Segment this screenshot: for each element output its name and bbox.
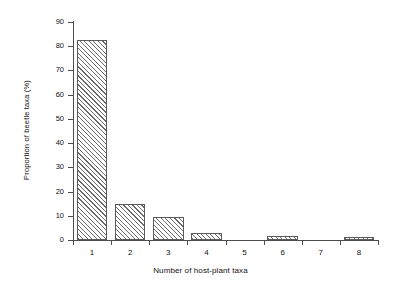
y-axis-tick-label: 10 (0, 211, 64, 220)
bar-4 (191, 233, 222, 240)
x-axis-tick (73, 240, 74, 245)
x-axis-tick-label: 8 (347, 248, 371, 257)
y-axis-tick-label: 60 (0, 90, 64, 99)
x-axis-tick-label: 4 (194, 248, 218, 257)
y-axis-tick (68, 167, 73, 168)
x-axis-tick-label: 2 (118, 248, 142, 257)
bar-3 (153, 217, 184, 240)
x-axis-tick (149, 240, 150, 245)
y-axis-tick (68, 46, 73, 47)
bar-8 (344, 237, 375, 240)
x-axis-tick-label: 3 (156, 248, 180, 257)
x-axis-tick (340, 240, 341, 245)
y-axis-tick (68, 22, 73, 23)
y-axis-tick-label: 30 (0, 162, 64, 171)
y-axis-tick-label: 90 (0, 17, 64, 26)
x-axis-tick-label: 6 (271, 248, 295, 257)
y-axis-tick-label: 0 (0, 235, 64, 244)
x-axis-tick (187, 240, 188, 245)
y-axis-tick (68, 70, 73, 71)
y-axis-tick-label: 20 (0, 187, 64, 196)
y-axis-tick (68, 143, 73, 144)
y-axis-tick (68, 119, 73, 120)
y-axis-tick-label: 50 (0, 114, 64, 123)
x-axis-tick (264, 240, 265, 245)
x-axis-tick-label: 7 (309, 248, 333, 257)
chart-figure: Proportion of beetle taxa (%) Number of … (0, 0, 401, 291)
x-axis-tick-label: 5 (233, 248, 257, 257)
x-axis-tick (111, 240, 112, 245)
x-axis-tick (302, 240, 303, 245)
y-axis-tick-label: 70 (0, 65, 64, 74)
x-axis-tick (226, 240, 227, 245)
y-axis-tick (68, 95, 73, 96)
y-axis-tick (68, 216, 73, 217)
x-axis-tick (378, 240, 379, 245)
bar-1 (77, 40, 108, 240)
bar-2 (115, 204, 146, 240)
bar-6 (267, 236, 298, 240)
x-axis-title: Number of host-plant taxa (0, 266, 401, 275)
x-axis-tick-label: 1 (80, 248, 104, 257)
y-axis-tick (68, 192, 73, 193)
y-axis-tick-label: 80 (0, 41, 64, 50)
y-axis-tick-label: 40 (0, 138, 64, 147)
